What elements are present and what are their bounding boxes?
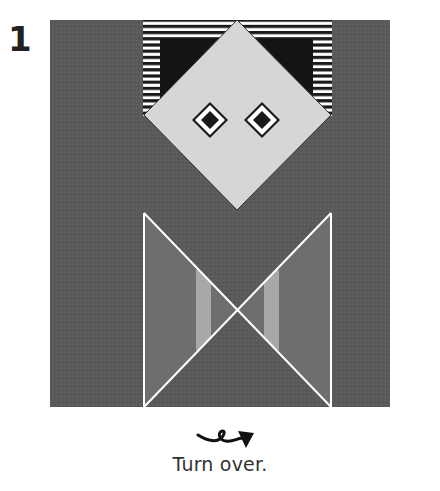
left-light-bar [196,270,211,350]
right-light-bar [264,270,279,350]
turn-over-arrow-icon [196,426,256,452]
instruction-text: Turn over. [0,453,440,475]
lower-x-section [144,213,331,407]
origami-diagram [0,0,440,430]
